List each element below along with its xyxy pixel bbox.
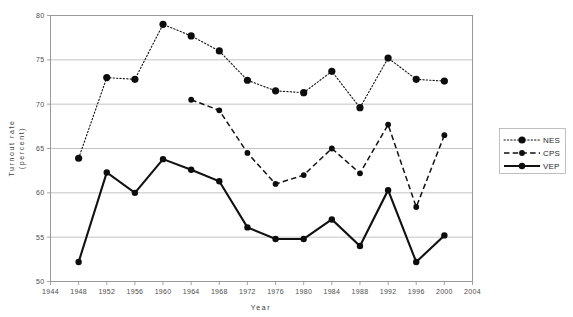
data-point-vep-1948 bbox=[75, 259, 81, 265]
data-point-nes-1980 bbox=[300, 89, 307, 96]
data-point-nes-1972 bbox=[244, 77, 251, 84]
data-point-vep-2000 bbox=[441, 232, 447, 238]
x-tick-label-1976: 1976 bbox=[267, 288, 284, 295]
data-point-cps-1964 bbox=[188, 97, 194, 103]
x-tick-label-1992: 1992 bbox=[380, 288, 397, 295]
data-point-nes-1988 bbox=[356, 104, 363, 111]
data-point-vep-1960 bbox=[160, 156, 166, 162]
x-axis-tick-labels: 1944194819521956196019641968197219761980… bbox=[42, 288, 481, 295]
data-point-vep-1968 bbox=[216, 178, 222, 184]
data-point-vep-1952 bbox=[104, 169, 110, 175]
data-point-nes-1952 bbox=[103, 74, 110, 81]
data-point-vep-1996 bbox=[413, 259, 419, 265]
data-point-cps-1992 bbox=[385, 122, 391, 128]
data-series-layer bbox=[75, 21, 448, 265]
gridlines bbox=[51, 60, 473, 237]
data-point-cps-1984 bbox=[329, 146, 335, 152]
x-axis-title: Year bbox=[251, 304, 272, 311]
data-point-nes-1996 bbox=[413, 76, 420, 83]
data-point-nes-1992 bbox=[385, 54, 392, 61]
legend-label-nes: NES bbox=[543, 136, 560, 145]
data-point-nes-1984 bbox=[328, 68, 335, 75]
data-point-vep-1992 bbox=[385, 187, 391, 193]
data-point-cps-1976 bbox=[273, 181, 279, 187]
x-tick-label-1980: 1980 bbox=[295, 288, 312, 295]
data-point-nes-1948 bbox=[75, 155, 82, 162]
series-line-vep bbox=[79, 159, 445, 262]
data-point-nes-1968 bbox=[216, 47, 223, 54]
y-axis-tick-labels: 50556065707580 bbox=[36, 12, 44, 285]
legend-marker-vep bbox=[519, 163, 525, 169]
x-tick-label-1948: 1948 bbox=[70, 288, 87, 295]
data-point-nes-1976 bbox=[272, 87, 279, 94]
y-axis-tick-marks bbox=[47, 16, 51, 282]
data-point-vep-1984 bbox=[329, 216, 335, 222]
data-point-vep-1972 bbox=[244, 224, 250, 230]
y-tick-label-65: 65 bbox=[36, 145, 44, 152]
data-point-cps-1972 bbox=[245, 150, 251, 156]
y-tick-label-70: 70 bbox=[36, 101, 44, 108]
y-axis-title-line-1: Turnout rate bbox=[8, 119, 15, 176]
chart-container: 1944194819521956196019641968197219761980… bbox=[0, 0, 573, 317]
data-point-cps-1988 bbox=[357, 170, 363, 176]
data-point-nes-2000 bbox=[441, 78, 448, 85]
legend-label-vep: VEP bbox=[543, 162, 560, 171]
chart-legend: NESCPSVEP bbox=[500, 129, 566, 174]
x-tick-label-2004: 2004 bbox=[464, 288, 481, 295]
x-axis-tick-marks bbox=[51, 282, 473, 286]
data-point-vep-1956 bbox=[132, 190, 138, 196]
y-tick-label-75: 75 bbox=[36, 56, 44, 63]
x-tick-label-2000: 2000 bbox=[436, 288, 453, 295]
series-vep bbox=[75, 156, 447, 265]
x-tick-label-1960: 1960 bbox=[155, 288, 172, 295]
x-tick-label-1972: 1972 bbox=[239, 288, 256, 295]
x-tick-label-1968: 1968 bbox=[211, 288, 228, 295]
series-nes bbox=[75, 21, 448, 162]
data-point-vep-1980 bbox=[301, 236, 307, 242]
data-point-vep-1988 bbox=[357, 243, 363, 249]
data-point-cps-1996 bbox=[413, 204, 419, 210]
x-tick-label-1996: 1996 bbox=[408, 288, 425, 295]
x-tick-label-1964: 1964 bbox=[183, 288, 200, 295]
data-point-vep-1976 bbox=[272, 236, 278, 242]
legend-marker-nes bbox=[518, 136, 525, 143]
x-tick-label-1988: 1988 bbox=[352, 288, 369, 295]
data-point-vep-1964 bbox=[188, 167, 194, 173]
y-tick-label-80: 80 bbox=[36, 12, 44, 19]
data-point-cps-1980 bbox=[301, 172, 307, 178]
legend-label-cps: CPS bbox=[543, 149, 560, 158]
y-tick-label-50: 50 bbox=[36, 278, 44, 285]
data-point-nes-1956 bbox=[131, 76, 138, 83]
data-point-cps-2000 bbox=[441, 132, 447, 138]
series-line-cps bbox=[191, 100, 444, 207]
y-axis-title-line-2: (percent) bbox=[18, 127, 26, 169]
turnout-line-chart: 1944194819521956196019641968197219761980… bbox=[0, 0, 573, 317]
data-point-nes-1964 bbox=[188, 32, 195, 39]
legend-marker-cps bbox=[519, 150, 525, 156]
x-tick-label-1984: 1984 bbox=[323, 288, 340, 295]
x-tick-label-1952: 1952 bbox=[98, 288, 115, 295]
y-tick-label-60: 60 bbox=[36, 189, 44, 196]
x-tick-label-1956: 1956 bbox=[127, 288, 144, 295]
y-tick-label-55: 55 bbox=[36, 234, 44, 241]
series-line-nes bbox=[79, 24, 445, 158]
x-tick-label-1944: 1944 bbox=[42, 288, 59, 295]
data-point-cps-1968 bbox=[216, 107, 222, 113]
data-point-nes-1960 bbox=[159, 21, 166, 28]
